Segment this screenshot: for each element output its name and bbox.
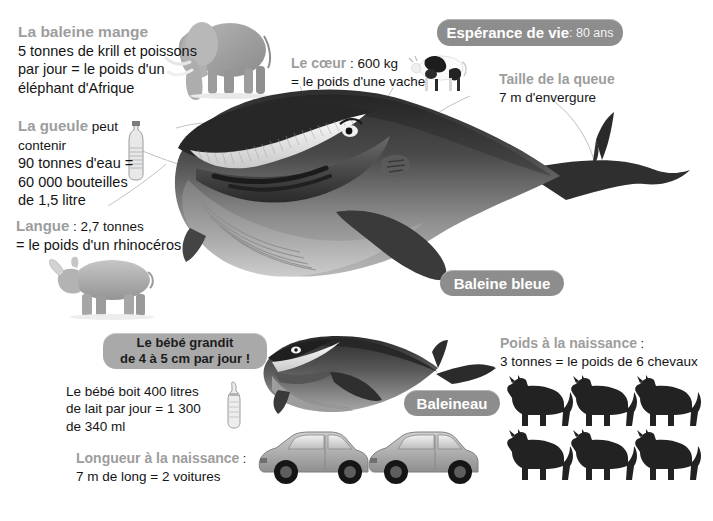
fact-birth-weight-colon: : <box>637 337 644 351</box>
badge-adult-name: Baleine bleue <box>440 270 564 296</box>
fact-mouth-headline: La gueule peut contenir <box>18 116 168 154</box>
fact-heart-value: : 600 kg <box>346 56 398 71</box>
fact-mouth-title: La gueule <box>18 117 88 134</box>
fact-birth-length-title: Longueur à la naissance <box>76 450 239 466</box>
fact-tail-title: Taille de la queue <box>499 71 674 89</box>
fact-feeding-line-2: par jour = le poids d'un <box>18 60 208 79</box>
fact-mouth-line-2: 60 000 bouteilles <box>18 173 168 192</box>
fact-baby-milk-line-3: de 340 ml <box>66 418 231 435</box>
fact-tail: Taille de la queue 7 m d'envergure <box>499 71 674 106</box>
fact-tongue-headline: Langue : 2,7 tonnes <box>16 216 206 236</box>
fact-tongue-title: Langue <box>16 217 69 234</box>
blue-whale-illustration <box>175 90 690 281</box>
fact-tongue: Langue : 2,7 tonnes = le poids d'un rhin… <box>16 216 206 254</box>
fact-birth-length: Longueur à la naissance : 7 m de long = … <box>76 450 281 485</box>
badge-calf-name: Baleineau <box>404 390 500 416</box>
fact-heart-title: Le cœur <box>291 55 346 71</box>
fact-birth-weight-title: Poids à la naissance <box>500 335 637 351</box>
fact-birth-weight: Poids à la naissance : 3 tonnes = le poi… <box>500 335 713 370</box>
fact-tail-line-1: 7 m d'envergure <box>499 89 674 106</box>
badge-calf-name-label: Baleineau <box>417 395 488 412</box>
badge-baby-growth: Le bébé grandit de 4 à 5 cm par jour ! <box>103 333 267 369</box>
fact-heart: Le cœur : 600 kg = le poids d'une vache <box>291 55 426 90</box>
fact-tongue-line-1: = le poids d'un rhinocéros <box>16 236 206 255</box>
fact-heart-line-1: = le poids d'une vache <box>291 73 426 90</box>
fact-feeding-line-1: 5 tonnes de krill et poissons <box>18 42 208 61</box>
rhinoceros-illustration <box>49 257 154 320</box>
fact-tongue-value: : 2,7 tonnes <box>69 219 143 234</box>
fact-heart-headline: Le cœur : 600 kg <box>291 55 426 73</box>
badge-adult-name-label: Baleine bleue <box>454 275 551 292</box>
fact-mouth: La gueule peut contenir 90 tonnes d'eau … <box>18 116 168 210</box>
badge-lifespan-label: Espérance de vie <box>446 24 569 41</box>
fact-birth-length-headline: Longueur à la naissance : <box>76 450 281 468</box>
fact-feeding-title: La baleine mange <box>18 22 208 42</box>
badge-baby-growth-line-2: de 4 à 5 cm par jour ! <box>120 351 250 367</box>
badge-lifespan: Espérance de vie : 80 ans <box>437 19 623 46</box>
fact-baby-milk-line-1: Le bébé boit 400 litres <box>66 383 231 400</box>
fact-feeding-line-3: éléphant d'Afrique <box>18 79 208 98</box>
fact-birth-length-line-1: 7 m de long = 2 voitures <box>76 468 281 485</box>
fact-birth-weight-headline: Poids à la naissance : <box>500 335 713 353</box>
whale-infographic-poster: La baleine mange 5 tonnes de krill et po… <box>0 0 713 521</box>
horse-silhouette-group <box>507 375 701 480</box>
badge-baby-growth-line-1: Le bébé grandit <box>137 335 234 351</box>
fact-feeding: La baleine mange 5 tonnes de krill et po… <box>18 22 208 97</box>
fact-baby-milk: Le bébé boit 400 litres de lait par jour… <box>66 383 231 435</box>
fact-birth-length-colon: : <box>239 452 246 466</box>
fact-mouth-line-1: 90 tonnes d'eau = <box>18 154 168 173</box>
car-illustration-2 <box>369 432 478 484</box>
fact-baby-milk-line-2: de lait par jour = 1 300 <box>66 400 231 417</box>
badge-lifespan-value: : 80 ans <box>569 26 613 40</box>
fact-birth-weight-line-1: 3 tonnes = le poids de 6 chevaux <box>500 353 713 370</box>
fact-mouth-line-3: de 1,5 litre <box>18 191 168 210</box>
